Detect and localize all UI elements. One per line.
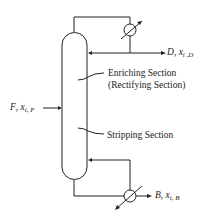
column (62, 33, 87, 180)
boilup-line (91, 160, 130, 190)
bottoms-line (74, 180, 124, 196)
distillate-label: D, xi ,D (167, 47, 193, 61)
arrowhead (58, 106, 62, 110)
feed-label: F, xi, F (10, 102, 35, 116)
overhead-vapor-line (74, 17, 130, 32)
bottoms-label: B, xi, B (155, 190, 180, 204)
arrowhead (88, 51, 92, 55)
condenser-icon (124, 24, 136, 36)
enriching-section-label: Enriching Section (108, 68, 176, 79)
stripping-section-label: Stripping Section (107, 130, 173, 141)
arrowhead (147, 194, 152, 198)
arrowhead (161, 51, 166, 55)
rectifying-section-label: (Rectifying Section) (108, 80, 185, 91)
arrowhead (88, 158, 92, 162)
